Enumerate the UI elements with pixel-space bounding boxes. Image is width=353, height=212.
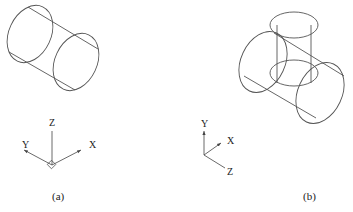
- cylinder-b-bottom-edge: [244, 76, 316, 118]
- axis-b-y-label: Y: [201, 118, 208, 129]
- cylinder-a-bottom-edge: [9, 52, 75, 90]
- axis-b-z-label: Z: [227, 166, 233, 177]
- axis-b-z: [204, 155, 225, 168]
- cylinder-a-top-edge: [28, 7, 98, 49]
- caption-a: (a): [52, 190, 65, 203]
- axis-b-x-label: X: [227, 135, 235, 146]
- axis-a-z-label: Z: [49, 117, 55, 128]
- axis-a-x: [52, 150, 81, 165]
- axis-triad-b: Y X Z: [201, 118, 235, 177]
- cylinder-b: [230, 12, 353, 131]
- axis-a-y-label: Y: [22, 139, 29, 150]
- axis-b-x: [204, 143, 221, 155]
- axis-triad-a: Z Y X: [22, 117, 97, 169]
- caption-b: (b): [303, 190, 316, 203]
- cylinder-b-right-end: [287, 55, 353, 132]
- cylinder-a-left-end: [0, 0, 62, 70]
- diagram-canvas: Z Y X (a) Y X Z (b): [0, 0, 353, 212]
- cylinder-b-top-edge: [274, 33, 344, 76]
- axis-a-y: [24, 150, 52, 165]
- cylinder-a: [0, 0, 108, 98]
- cylinder-b-left-end: [230, 24, 297, 101]
- cylinder-a-right-end: [44, 26, 107, 98]
- axis-a-x-label: X: [89, 139, 97, 150]
